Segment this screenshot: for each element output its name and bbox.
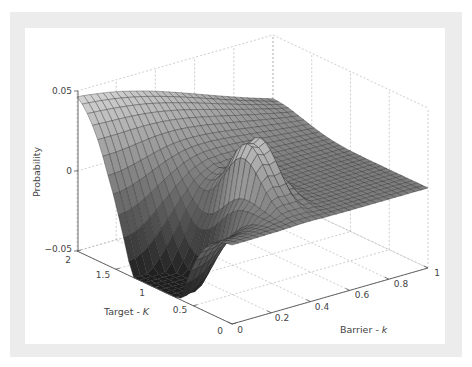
- K-axis-variable: K: [143, 306, 150, 317]
- k-tick-mark: [267, 311, 271, 313]
- K-axis-label-text: Target -: [103, 306, 143, 317]
- k-tick-mark: [346, 288, 350, 290]
- grid-line: [273, 35, 428, 108]
- K-tick-mark: [116, 268, 120, 269]
- k-tick-0: 0: [237, 325, 243, 335]
- axis-line: [232, 268, 428, 324]
- k-axis-label: Barrier - k: [340, 324, 388, 335]
- K-tick-mark: [232, 323, 236, 324]
- K-tick-0: 0: [217, 326, 223, 336]
- k-tick-mark: [385, 277, 389, 279]
- K-tick-0.5: 0.5: [173, 305, 187, 315]
- surface-plot: 0.05 0 −0.05 2 1.5 1 0.5 0 0 0.2 0.4 0.6…: [0, 0, 472, 367]
- probability-surface: [77, 91, 428, 298]
- K-tick-2: 2: [65, 255, 71, 265]
- k-tick-0.8: 0.8: [394, 279, 409, 289]
- k-axis-label-text: Barrier -: [340, 324, 382, 335]
- K-tick-mark: [193, 305, 197, 306]
- z-axis-label: Probability: [31, 147, 42, 198]
- z-tick-0: 0: [66, 166, 72, 176]
- k-tick-0.2: 0.2: [275, 313, 289, 323]
- K-tick-1.5: 1.5: [96, 270, 110, 280]
- K-axis-label: Target - K: [103, 306, 150, 317]
- k-tick-1: 1: [434, 268, 440, 278]
- grid-line: [77, 35, 273, 91]
- k-tick-0.4: 0.4: [315, 302, 330, 312]
- k-tick-mark: [424, 266, 428, 268]
- k-axis-variable: k: [382, 324, 388, 335]
- z-tick-0.05: 0.05: [52, 86, 72, 96]
- K-tick-1: 1: [139, 288, 145, 298]
- k-tick-mark: [306, 300, 310, 302]
- k-tick-0.6: 0.6: [355, 290, 370, 300]
- z-tick-neg0.05: −0.05: [44, 244, 72, 254]
- k-tick-mark: [228, 322, 232, 324]
